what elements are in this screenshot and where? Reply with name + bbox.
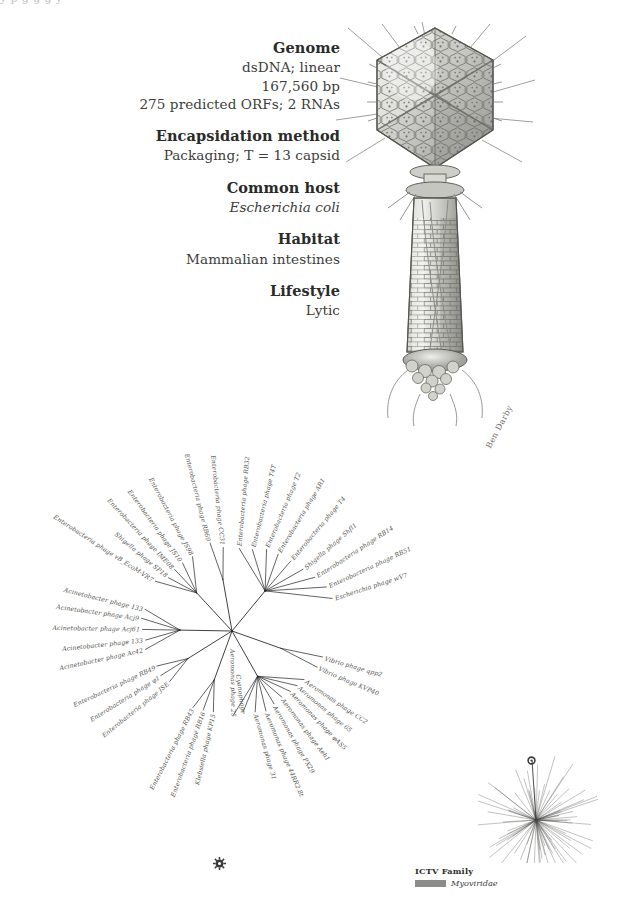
tree-branch (213, 680, 214, 712)
legend-swatch-myoviridae (415, 880, 446, 887)
tree-branch (232, 591, 265, 631)
focal-node-marker (213, 855, 226, 868)
tree-branch (169, 578, 197, 593)
fact-group: Common hostEscherichia coli (20, 178, 340, 217)
inset-tree-branch (548, 827, 571, 840)
inset-tree-branch (538, 790, 540, 806)
fact-heading: Common host (20, 178, 340, 197)
fact-heading: Lifestyle (20, 281, 340, 300)
tree-branch (258, 676, 266, 711)
inset-tree-branch (513, 808, 520, 812)
tree-branch (188, 631, 232, 659)
tree-branch (183, 563, 197, 593)
tree-branch (146, 630, 180, 640)
tree-branch (180, 630, 232, 631)
inset-tree-branch (489, 829, 525, 858)
fact-group: HabitatMammalian intestines (20, 229, 340, 268)
tree-branch (265, 561, 291, 591)
fact-value: Mammalian intestines (20, 250, 340, 268)
tree-branch (232, 631, 281, 648)
tree-branch (239, 548, 265, 590)
phage-drawing-svg (330, 22, 540, 432)
fact-value: Escherichia coli (20, 198, 340, 216)
inset-tree-branch (478, 794, 521, 813)
legend-title: ICTV Family (415, 866, 498, 876)
fact-value: Lytic (20, 301, 340, 319)
baseplate (388, 349, 483, 426)
tree-branch (175, 570, 197, 593)
inset-tree-branch (548, 824, 593, 840)
tree-branch (203, 680, 214, 710)
fact-value: 275 predicted ORFs; 2 RNAs (20, 95, 340, 113)
tree-branch (161, 659, 188, 676)
tree-branch (252, 549, 265, 590)
fact-heading: Encapsidation method (20, 126, 340, 145)
inset-tree-branch (542, 764, 572, 810)
fact-group: LifestyleLytic (20, 281, 340, 320)
fact-value: Packaging; T = 13 capsid (20, 146, 340, 164)
inset-tree-branch (550, 831, 582, 855)
inset-tree-branch (536, 765, 537, 811)
inset-tree-branch (490, 825, 528, 847)
tree-branch (265, 550, 266, 591)
tree-branch (265, 587, 326, 591)
inset-overview-tree (478, 748, 598, 863)
fact-group: GenomedsDNA; linear167,560 bp275 predict… (20, 38, 340, 113)
inset-tree-branch (542, 830, 563, 863)
inset-tree-branch (515, 793, 527, 809)
tail-sheath (400, 198, 470, 358)
inset-tree-branch (513, 826, 527, 836)
legend-row: Myoviridae (415, 878, 498, 888)
inset-tree-branch (488, 782, 526, 811)
fact-heading: Genome (20, 38, 340, 57)
inset-tree-branch (534, 837, 536, 863)
inset-tree-branch (516, 770, 533, 812)
tree-branch (193, 557, 197, 593)
tree-branch (265, 569, 303, 591)
tree-branch (193, 680, 214, 707)
fact-panel: GenomedsDNA; linear167,560 bp275 predict… (20, 38, 340, 333)
tree-branch (210, 543, 223, 580)
inset-tree-branch (527, 835, 530, 844)
inset-tree-branch (549, 790, 585, 812)
legend-label-myoviridae: Myoviridae (451, 878, 498, 888)
fact-heading: Habitat (20, 229, 340, 248)
tree-branch (281, 648, 322, 657)
fact-value: 167,560 bp (20, 77, 340, 95)
tree-branch (265, 591, 332, 599)
capsid (367, 22, 504, 174)
page-top-artifact: y p g g g y (0, 0, 641, 6)
tree-branch (142, 629, 180, 630)
tree-branch (281, 648, 317, 667)
tree-branch (265, 577, 315, 591)
inset-focal-node-marker (527, 750, 536, 759)
inset-tree-branch (494, 833, 526, 863)
inset-tree-branch (539, 784, 545, 807)
inset-tree-branch (478, 821, 521, 826)
tree-branch (142, 618, 180, 630)
inset-tree-branch (552, 817, 577, 819)
phage-illustration: Ben Darby (330, 22, 540, 432)
tree-branch (145, 630, 180, 649)
ictv-family-legend: ICTV Family Myoviridae (415, 866, 498, 888)
tree-branch (155, 581, 196, 593)
fact-value: dsDNA; linear (20, 58, 340, 76)
fact-group: Encapsidation methodPackaging; T = 13 ca… (20, 126, 340, 165)
inset-tree-branch (541, 830, 553, 854)
tree-branch (265, 554, 278, 591)
tree-branch (145, 609, 180, 630)
inset-tree-svg (478, 748, 598, 863)
